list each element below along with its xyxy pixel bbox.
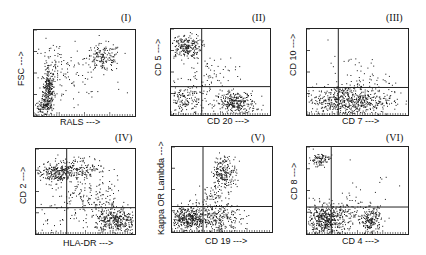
x-axis-label: CD 19 ---> xyxy=(205,236,247,246)
scatter-plot xyxy=(306,146,409,235)
scatter-plot xyxy=(170,28,271,116)
panel-title: (III) xyxy=(386,12,403,23)
scatter-plot xyxy=(306,28,409,116)
x-axis-label: CD 7 ---> xyxy=(342,116,379,126)
x-axis-label: CD 20 ---> xyxy=(207,116,249,126)
y-axis-label: Kappa OR Lambda ---> xyxy=(156,141,166,235)
y-axis-label: CD 2 ---> xyxy=(18,167,28,204)
y-axis-label: FSC ---> xyxy=(16,51,26,86)
panel-title: (I) xyxy=(121,12,131,23)
panel-title: (IV) xyxy=(115,132,132,143)
panel-title: (V) xyxy=(251,132,265,143)
y-axis-label: CD 5 ---> xyxy=(153,39,163,76)
scatter-plot xyxy=(33,29,136,117)
y-axis-label: CD 10 ---> xyxy=(288,34,298,76)
panel-title: (II) xyxy=(252,12,265,23)
scatter-plot xyxy=(35,148,136,235)
scatter-plot xyxy=(171,146,273,233)
scatter-points xyxy=(171,29,270,115)
x-axis-label: HLA-DR ---> xyxy=(63,238,113,248)
scatter-points xyxy=(307,29,408,115)
scatter-points xyxy=(34,30,135,116)
panel-title: (VI) xyxy=(386,132,403,143)
scatter-points xyxy=(307,147,408,234)
x-axis-label: RALS ---> xyxy=(60,117,100,127)
scatter-points xyxy=(36,149,135,234)
x-axis-label: CD 4 ---> xyxy=(342,236,379,246)
scatter-points xyxy=(172,147,272,232)
y-axis-label: CD 8 ---> xyxy=(289,163,299,200)
